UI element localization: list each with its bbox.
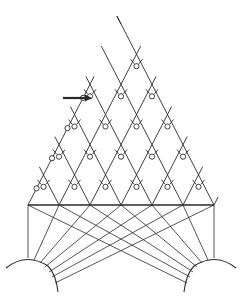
base-arcs — [6, 259, 236, 292]
node-circle — [134, 124, 139, 129]
left-base-arc — [6, 259, 58, 292]
node-circle — [165, 184, 170, 189]
fan-line — [49, 205, 152, 272]
diagonal-line — [152, 137, 187, 205]
node-circle — [165, 124, 170, 129]
fan-line — [59, 205, 190, 277]
fan-lines — [28, 205, 214, 283]
diagonal-line — [59, 46, 141, 205]
node-circle — [103, 184, 108, 189]
node-circle — [103, 124, 108, 129]
node-circle — [149, 94, 154, 99]
diagram-canvas — [0, 0, 240, 304]
node-circle — [72, 184, 77, 189]
edge-circle — [49, 156, 54, 161]
fan-line — [90, 205, 193, 272]
node-circle — [196, 184, 201, 189]
diagonal-line — [121, 106, 172, 205]
fan-line — [34, 205, 59, 260]
fan-line — [121, 205, 197, 267]
triangular-lattice — [28, 16, 218, 205]
node-circle — [118, 154, 123, 159]
node-circle — [87, 154, 92, 159]
fan-line — [52, 205, 183, 277]
edge-circle — [34, 186, 39, 191]
node-circle — [118, 94, 123, 99]
diagonal-line — [214, 197, 218, 205]
edge-circle — [65, 125, 70, 130]
fan-line — [45, 205, 121, 267]
fan-line — [183, 205, 208, 260]
node-circles — [34, 59, 205, 191]
right-base-arc — [184, 259, 236, 292]
fan-line — [40, 205, 90, 263]
node-circle — [72, 124, 77, 129]
lattice-diagram — [0, 0, 240, 304]
node-circle — [134, 184, 139, 189]
node-circle — [41, 184, 46, 189]
node-circle — [149, 154, 154, 159]
diagonal-line — [55, 137, 90, 205]
diagonal-line — [101, 46, 183, 205]
node-circle — [134, 64, 139, 69]
apex-tick — [117, 16, 121, 24]
diagonal-line — [70, 106, 121, 205]
diagonal-line — [117, 16, 214, 205]
node-circle — [56, 154, 61, 159]
fan-line — [152, 205, 202, 263]
node-circle — [180, 154, 185, 159]
